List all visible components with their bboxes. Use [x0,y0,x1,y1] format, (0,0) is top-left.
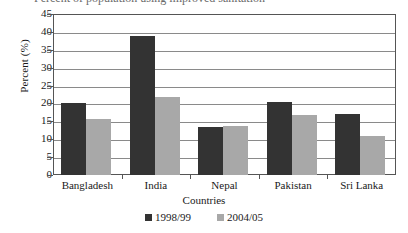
bar [267,102,292,175]
x-axis-title: Countries [0,194,408,206]
bar-chart-figure: Percent (%) 454035302520151050 Banglades… [0,0,408,233]
bar-group [327,14,396,175]
bar [130,36,155,175]
bar-group [122,14,191,175]
bar-group [259,14,328,175]
legend-label: 1998/99 [155,212,191,223]
bar [223,126,248,175]
x-tick-label: Pakistan [259,179,328,191]
square-marker-icon [145,214,152,221]
legend-item: 1998/99 [145,212,191,223]
x-tick-label: Sri Lanka [327,179,396,191]
bar-group [190,14,259,175]
bar [335,114,360,175]
bar-group [53,14,122,175]
square-marker-icon [217,214,224,221]
bar [360,136,385,175]
y-tick-mark [47,175,53,176]
bar [61,103,86,175]
chart-legend: 1998/992004/05 [0,212,408,223]
bar [155,97,180,175]
legend-item: 2004/05 [217,212,263,223]
bar [198,127,223,175]
legend-label: 2004/05 [227,212,263,223]
x-tick-label: Bangladesh [53,179,122,191]
x-tick-label: India [122,179,191,191]
x-tick-label: Nepal [190,179,259,191]
bar [292,115,317,175]
bar [86,119,111,175]
